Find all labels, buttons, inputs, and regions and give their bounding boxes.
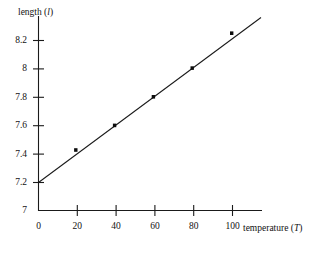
y-tick-label-7-8: 7.8 xyxy=(3,93,27,103)
data-point xyxy=(113,124,116,128)
y-tick-label-7-2: 7.2 xyxy=(3,178,27,188)
x-tick-label-60: 60 xyxy=(142,222,168,232)
y-axis-title-suffix: ) xyxy=(50,7,53,17)
x-axis-title-suffix: ) xyxy=(299,223,302,233)
y-tick-label-8-2: 8.2 xyxy=(3,36,27,46)
x-tick-label-80: 80 xyxy=(181,222,207,232)
best-fit-line xyxy=(39,18,262,183)
data-point xyxy=(74,148,77,152)
y-tick-label-7-6: 7.6 xyxy=(3,121,27,131)
data-point-markers xyxy=(74,31,233,151)
data-point xyxy=(152,95,155,99)
y-tick-label-7: 7 xyxy=(3,206,27,216)
graph-figure: length (l) temperature (T) 7 7.2 7.4 7.6… xyxy=(0,0,322,254)
x-axis-title-prefix: temperature ( xyxy=(243,223,294,233)
x-tick-label-100: 100 xyxy=(220,222,246,232)
x-tick-label-0: 0 xyxy=(26,222,52,232)
y-axis-title-prefix: length ( xyxy=(18,7,47,17)
x-axis-title: temperature (T) xyxy=(243,224,302,234)
y-axis-title: length (l) xyxy=(18,8,53,18)
x-tick-label-20: 20 xyxy=(64,222,90,232)
y-tick-label-7-4: 7.4 xyxy=(3,150,27,160)
data-point xyxy=(191,66,194,70)
data-point xyxy=(230,31,233,35)
y-tick-label-8: 8 xyxy=(3,64,27,74)
plot-area xyxy=(0,0,322,254)
x-tick-label-40: 40 xyxy=(103,222,129,232)
